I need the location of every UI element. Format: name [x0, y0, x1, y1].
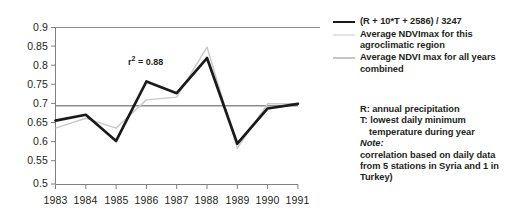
y-tick-label: 0.5 — [18, 177, 48, 189]
legend-line-swatch-medium-gray-icon — [333, 52, 355, 64]
note-line-2: from 5 stations in Syria and 1 in — [360, 161, 512, 172]
x-tick-label: 1991 — [277, 194, 318, 206]
legend-line-swatch-black-icon — [333, 16, 355, 28]
legend-label-average-all-years: Average NDVI max for all years combined — [360, 52, 511, 74]
legend-item-average-region: Average NDVImax for this agroclimatic re… — [333, 29, 511, 51]
note-variable-t-continued: temperature during year — [360, 127, 512, 138]
chart-legend: (R + 10*T + 2586) / 3247 Average NDVImax… — [333, 16, 511, 76]
note-line-3: Turkey) — [360, 172, 512, 183]
legend-label-average-region: Average NDVImax for this agroclimatic re… — [360, 29, 511, 51]
y-tick-label: 0.75 — [14, 78, 48, 90]
y-tick-label: 0.7 — [18, 97, 48, 109]
note-label: Note: — [360, 138, 512, 149]
chart-svg — [0, 0, 320, 217]
ndvi-climate-index-figure: 0.9 0.85 0.8 0.75 0.7 0.65 0.6 0.55 0.5 … — [0, 0, 513, 217]
legend-line-swatch-light-gray-icon — [333, 29, 355, 41]
chart-plot-area: 0.9 0.85 0.8 0.75 0.7 0.65 0.6 0.55 0.5 … — [0, 0, 320, 217]
y-tick-label: 0.85 — [14, 40, 48, 52]
y-tick-label: 0.65 — [14, 116, 48, 128]
x-axis-ticks — [56, 185, 298, 190]
series-average-region — [56, 47, 298, 148]
y-tick-label: 0.55 — [14, 154, 48, 166]
y-axis-ticks — [51, 28, 56, 185]
legend-label-climate-index: (R + 10*T + 2586) / 3247 — [360, 16, 462, 27]
legend-item-average-all-years: Average NDVI max for all years combined — [333, 52, 511, 74]
legend-item-climate-index: (R + 10*T + 2586) / 3247 — [333, 16, 511, 28]
y-tick-label: 0.8 — [18, 59, 48, 71]
r-squared-rest: = 0.88 — [135, 57, 163, 67]
note-line-1: correlation based on daily data — [360, 150, 512, 161]
y-tick-label: 0.6 — [18, 135, 48, 147]
y-tick-label: 0.9 — [18, 21, 48, 33]
r-squared-annotation: r2 = 0.88 — [128, 57, 163, 67]
note-variable-r: R: annual precipitation — [360, 104, 512, 115]
note-variable-t: T: lowest daily minimum — [360, 115, 512, 126]
series-climate-index — [56, 58, 298, 144]
chart-notes: R: annual precipitation T: lowest daily … — [360, 104, 512, 184]
